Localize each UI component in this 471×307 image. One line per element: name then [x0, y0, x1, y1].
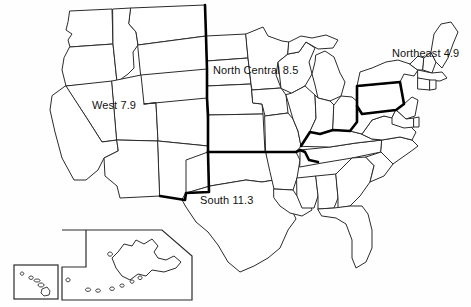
hawaii-island-molokai	[34, 279, 40, 282]
aleutian-5	[120, 284, 124, 287]
hawaii-inset	[14, 265, 58, 299]
state-washington	[66, 9, 113, 47]
alaska-inset-box	[62, 230, 192, 300]
alaska-island-1	[108, 252, 113, 256]
state-florida	[318, 206, 372, 268]
state-alabama	[316, 174, 338, 209]
us-region-map: West 7.9 North Central 8.5 South 11.3 No…	[0, 0, 471, 307]
region-label-west: West 7.9	[92, 100, 136, 111]
aleutian-2	[85, 288, 90, 291]
state-connecticut	[418, 78, 430, 90]
region-northeast-states	[357, 22, 458, 119]
aleutian-4	[110, 287, 115, 290]
hawaii-island-maui	[38, 283, 44, 287]
state-maine	[431, 22, 458, 68]
alaska-inset	[62, 230, 192, 300]
state-oregon	[62, 44, 117, 86]
state-north-dakota	[206, 34, 248, 61]
aleutian-3	[96, 289, 101, 292]
region-label-northeast: Northeast 4.9	[392, 48, 459, 59]
state-kansas	[208, 114, 265, 152]
aleutian-1	[66, 278, 70, 282]
state-rhode-island	[430, 80, 436, 90]
state-georgia	[336, 157, 374, 208]
state-delaware	[414, 117, 419, 127]
hawaii-island-oahu	[29, 276, 33, 279]
region-label-south: South 11.3	[200, 195, 253, 206]
alaska-island-2	[138, 276, 142, 280]
region-label-north-central: North Central 8.5	[213, 65, 298, 76]
state-michigan	[312, 51, 345, 101]
hawaii-island-kauai	[20, 272, 24, 275]
state-mississippi	[297, 176, 318, 208]
aleutian-6	[130, 280, 134, 283]
